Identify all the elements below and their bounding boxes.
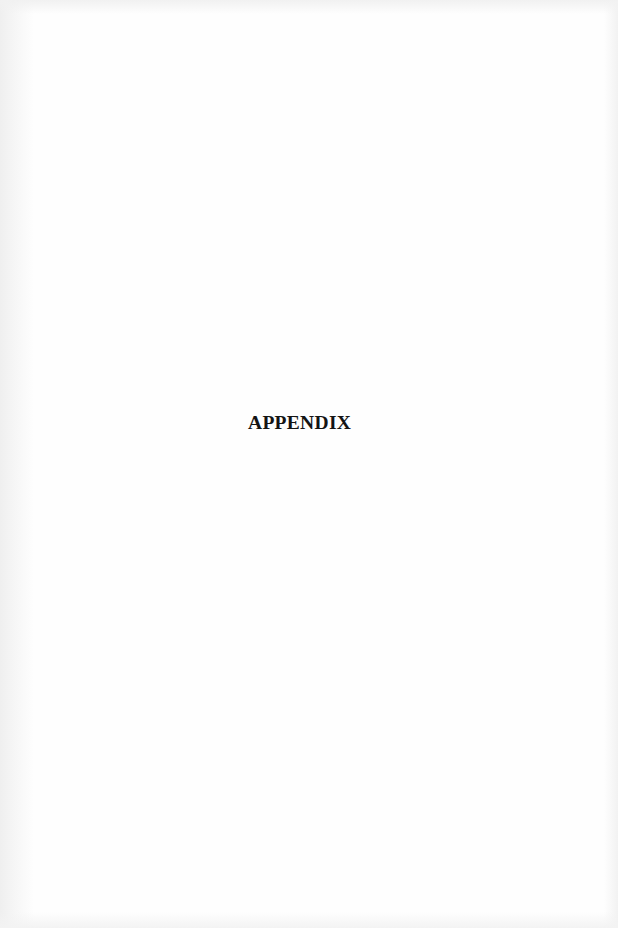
scan-shadow-top [0, 0, 618, 14]
page-title: APPENDIX [248, 411, 351, 435]
scan-shadow-bottom [0, 912, 618, 928]
scan-shadow-left [0, 0, 34, 928]
document-page: APPENDIX [0, 0, 618, 928]
scan-shadow-right [604, 0, 618, 928]
